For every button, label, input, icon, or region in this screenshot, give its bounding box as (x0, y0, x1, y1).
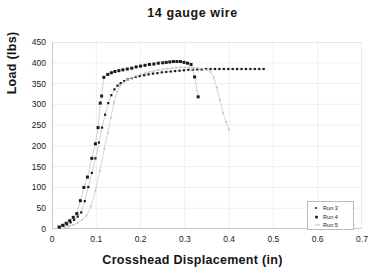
legend-item[interactable]: Run 3 (311, 204, 351, 212)
y-tick-label: 200 (16, 141, 46, 151)
legend-label-run-5: Run 5 (323, 221, 338, 229)
x-tick-label: 0.6 (303, 234, 333, 244)
legend-item[interactable]: Run 4 (311, 213, 351, 221)
x-tick-label: 0.1 (81, 234, 111, 244)
y-tick-label: 350 (16, 79, 46, 89)
chart-container: 14 gauge wire Load (lbs) Crosshead Displ… (0, 0, 385, 276)
y-tick-label: 250 (16, 120, 46, 130)
series-run-5 (64, 66, 231, 228)
y-tick-label: 0 (16, 224, 46, 234)
legend-label-run-4: Run 4 (323, 213, 338, 221)
x-tick-label: 0 (37, 234, 67, 244)
y-tick-label: 100 (16, 182, 46, 192)
series-run-3 (59, 68, 265, 229)
y-tick-label: 400 (16, 58, 46, 68)
series-run-4 (58, 60, 200, 228)
x-tick-label: 0.3 (170, 234, 200, 244)
legend-marker-run-4 (311, 213, 323, 221)
legend-item[interactable]: Run 5 (311, 221, 351, 229)
legend-marker-run-3 (311, 204, 323, 212)
legend-label-run-3: Run 3 (323, 204, 338, 212)
x-tick-label: 0.2 (126, 234, 156, 244)
y-tick-label: 150 (16, 162, 46, 172)
chart-title: 14 gauge wire (0, 6, 385, 20)
legend-marker-run-5 (311, 221, 323, 229)
x-tick-label: 0.4 (214, 234, 244, 244)
y-tick-label: 300 (16, 99, 46, 109)
x-axis-title: Crosshead Displacement (in) (0, 253, 385, 267)
x-tick-label: 0.7 (347, 234, 377, 244)
legend: Run 3 Run 4 Run 5 (307, 201, 354, 230)
y-tick-label: 50 (16, 203, 46, 213)
x-tick-label: 0.5 (258, 234, 288, 244)
y-tick-label: 450 (16, 37, 46, 47)
